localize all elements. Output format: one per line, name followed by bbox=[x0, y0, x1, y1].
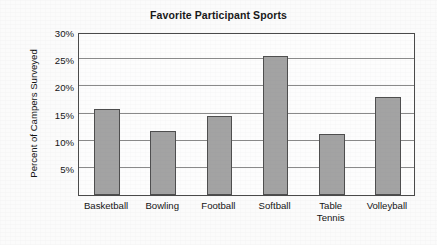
x-axis-tick-label-line: Softball bbox=[247, 200, 303, 212]
chart-title: Favorite Participant Sports bbox=[0, 9, 437, 21]
bar bbox=[94, 109, 120, 195]
gridline bbox=[79, 140, 414, 141]
gridline bbox=[79, 167, 414, 168]
bar bbox=[375, 97, 401, 195]
bar bbox=[150, 131, 176, 195]
x-axis-tick-label-line: Tennis bbox=[303, 212, 359, 224]
x-axis-tick-label: Volleyball bbox=[359, 200, 415, 212]
x-axis-tick-label: Basketball bbox=[78, 200, 134, 212]
y-axis-tick-label: 5% bbox=[36, 163, 74, 174]
x-axis-tick-label: Softball bbox=[247, 200, 303, 212]
x-axis-tick-label: TableTennis bbox=[303, 200, 359, 223]
gridline bbox=[79, 58, 414, 59]
x-axis-tick-label-line: Basketball bbox=[78, 200, 134, 212]
x-axis-tick-label-line: Football bbox=[190, 200, 246, 212]
x-axis-tick-label-line: Table bbox=[303, 200, 359, 212]
x-axis-tick-label: Football bbox=[190, 200, 246, 212]
y-axis-tick-label: 25% bbox=[36, 55, 74, 66]
x-axis-tick-label-line: Volleyball bbox=[359, 200, 415, 212]
bar bbox=[263, 56, 289, 195]
y-axis-tick-label: 15% bbox=[36, 109, 74, 120]
y-axis-tick-label: 30% bbox=[36, 28, 74, 39]
bar bbox=[319, 134, 345, 195]
y-axis-tick-label: 10% bbox=[36, 136, 74, 147]
x-axis-tick-label-line: Bowling bbox=[134, 200, 190, 212]
x-axis-tick-label: Bowling bbox=[134, 200, 190, 212]
bar-chart-figure: Favorite Participant Sports Percent of C… bbox=[0, 0, 437, 245]
gridline bbox=[79, 113, 414, 114]
y-axis-tick-label: 20% bbox=[36, 82, 74, 93]
gridline bbox=[79, 85, 414, 86]
y-axis-title: Percent of Campers Surveyed bbox=[28, 29, 39, 199]
bar bbox=[207, 116, 233, 195]
plot-area bbox=[78, 33, 415, 196]
